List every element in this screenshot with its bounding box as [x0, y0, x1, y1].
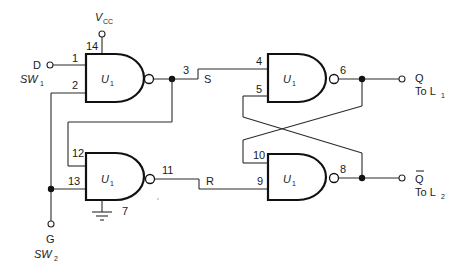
qbar-destination-label: To L: [415, 186, 436, 198]
sw2-label: SW: [34, 248, 53, 260]
gate-3-subscript: 1: [292, 80, 296, 87]
q-label: Q: [415, 72, 424, 84]
pin-9-label: 9: [257, 175, 263, 187]
nand-gate-4: U 1 10 9: [253, 149, 339, 200]
pin-6-label: 6: [340, 64, 346, 76]
gate-1-label: U: [101, 73, 109, 85]
gate-4-subscript: 1: [292, 180, 296, 187]
vcc-subscript: CC: [103, 18, 113, 25]
q-output: 6 Q To L 1: [339, 64, 446, 99]
qbar-destination-subscript: 2: [441, 193, 445, 200]
pin-12-label: 12: [72, 147, 84, 159]
nand-gate-2: U 1: [86, 153, 155, 200]
pin-2-label: 2: [72, 79, 78, 91]
d-label: D: [33, 59, 41, 71]
pin-7-label: 7: [122, 205, 128, 217]
g-input: G SW 2 2 13: [34, 79, 86, 262]
junction-dot: [359, 175, 365, 181]
qbar-label: Q: [415, 173, 424, 185]
pin-1-label: 1: [72, 52, 78, 64]
sw2-subscript: 2: [54, 255, 58, 262]
pin-3-label: 3: [183, 64, 189, 76]
gate-3-label: U: [283, 73, 291, 85]
pin-4-label: 4: [256, 55, 262, 67]
gate-1-subscript: 1: [110, 80, 114, 87]
pin-8-label: 8: [340, 163, 346, 175]
ground-symbol: 7: [92, 200, 128, 220]
gate-2-subscript: 1: [110, 180, 114, 187]
speck: [157, 198, 158, 199]
junction-dot: [48, 186, 54, 192]
g-label: G: [46, 233, 55, 245]
pin-11-label: 11: [162, 164, 173, 176]
pin-10-label: 10: [253, 149, 265, 161]
s-label: S: [204, 73, 211, 85]
pin-14-label: 14: [86, 40, 98, 52]
pin-5-label: 5: [256, 83, 262, 95]
r-label: R: [206, 175, 214, 187]
sw1-label: SW: [20, 73, 39, 85]
qbar-output: 8 Q To L 2: [339, 163, 446, 200]
gated-d-latch-schematic: V CC 14 D SW 1 1 G SW 2 2 13 U 1: [0, 0, 471, 271]
nand-gate-3: U 1 4 5: [256, 54, 339, 102]
nand-gate-1: U 1: [86, 54, 154, 102]
gate-4-label: U: [283, 173, 291, 185]
q-destination-label: To L: [415, 85, 436, 97]
gate-2-label: U: [101, 173, 109, 185]
q-destination-subscript: 1: [441, 92, 445, 99]
vcc-terminal: V CC 14: [86, 11, 113, 54]
sw1-subscript: 1: [40, 80, 44, 87]
r-signal-wire: 11 R: [155, 164, 269, 189]
pin-13-label: 13: [68, 175, 80, 187]
junction-dot: [359, 76, 365, 82]
